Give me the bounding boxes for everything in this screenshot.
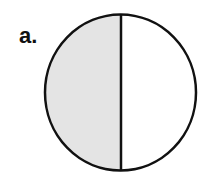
shaded-left-half [45, 15, 121, 171]
half-shaded-circle [0, 0, 204, 183]
figure-canvas: a. [0, 0, 204, 183]
unshaded-right-half [121, 15, 197, 171]
